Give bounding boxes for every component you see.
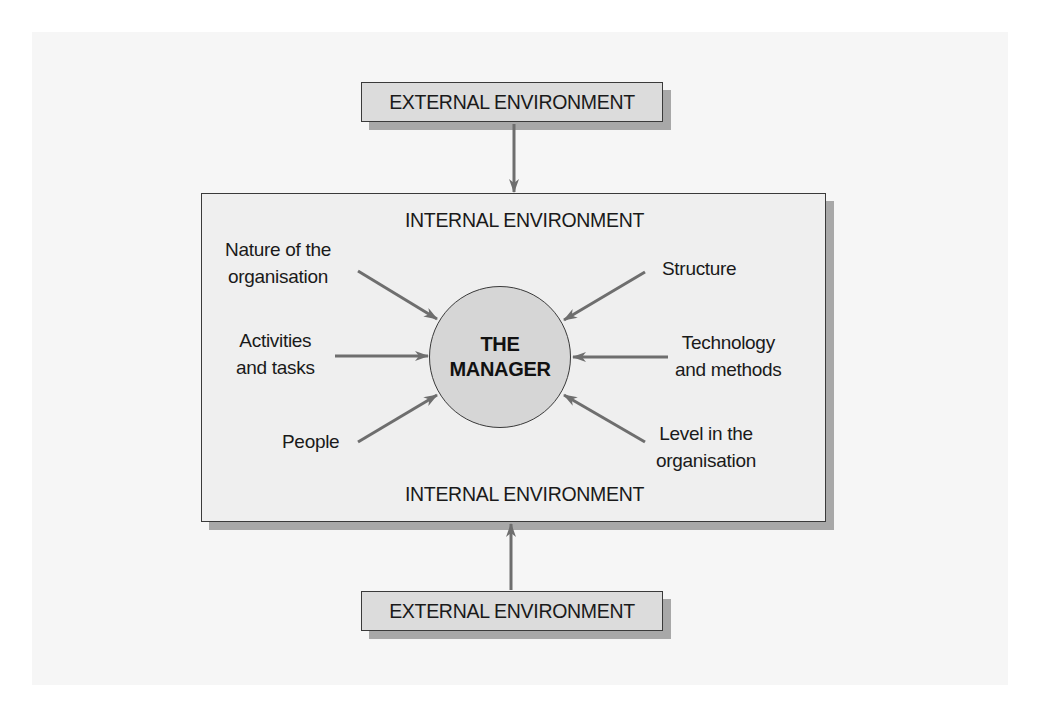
factor-text: Level in the	[656, 420, 756, 447]
internal-environment-top-label: INTERNAL ENVIRONMENT	[202, 209, 825, 232]
the-manager-circle: THE MANAGER	[429, 286, 571, 428]
factor-text: Technology	[675, 329, 782, 356]
factor-activities-and-tasks: Activities and tasks	[236, 327, 315, 381]
external-environment-top-box: EXTERNAL ENVIRONMENT	[361, 82, 663, 122]
factor-text: Activities	[236, 327, 315, 354]
factor-people: People	[282, 428, 339, 455]
factor-text: Nature of the	[225, 236, 331, 263]
factor-technology-and-methods: Technology and methods	[675, 329, 782, 383]
external-environment-bottom-box: EXTERNAL ENVIRONMENT	[361, 591, 663, 631]
factor-text: organisation	[225, 263, 331, 290]
factor-structure: Structure	[662, 255, 736, 282]
factor-text: People	[282, 428, 339, 455]
manager-line2: MANAGER	[449, 357, 550, 382]
external-environment-bottom-label: EXTERNAL ENVIRONMENT	[389, 600, 635, 623]
factor-nature-of-organisation: Nature of the organisation	[225, 236, 331, 290]
factor-text: Structure	[662, 255, 736, 282]
factor-text: organisation	[656, 447, 756, 474]
factor-level-in-organisation: Level in the organisation	[656, 420, 756, 474]
factor-text: and methods	[675, 356, 782, 383]
external-environment-top-label: EXTERNAL ENVIRONMENT	[389, 91, 635, 114]
factor-text: and tasks	[236, 354, 315, 381]
internal-environment-bottom-label: INTERNAL ENVIRONMENT	[202, 483, 825, 506]
manager-line1: THE	[480, 332, 519, 357]
